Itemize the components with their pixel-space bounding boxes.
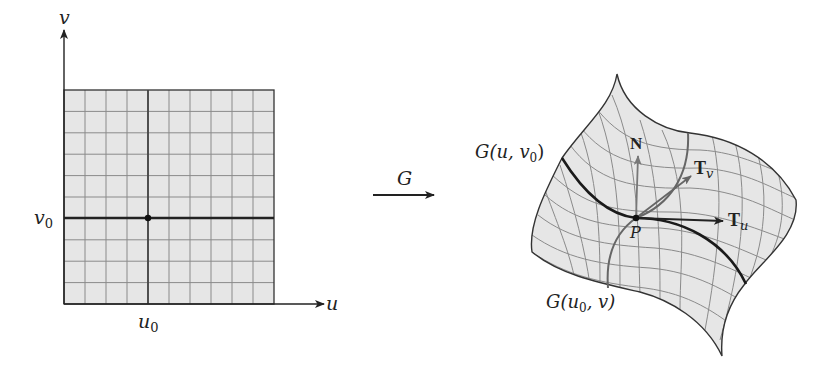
point-p-label: P xyxy=(629,223,641,242)
mapping-arrow-group: G xyxy=(373,167,434,195)
normal-label: N xyxy=(630,134,643,153)
u0-v0-point xyxy=(145,215,151,221)
domain-panel: v u v0 u0 xyxy=(34,6,338,335)
v-axis-label: v xyxy=(59,6,70,28)
mapping-label: G xyxy=(397,167,412,189)
v0-tick-label: v0 xyxy=(34,206,53,231)
point-p xyxy=(633,215,639,221)
u-axis-label: u xyxy=(326,292,338,314)
curve-u-v0-label: G(u, v0) xyxy=(475,141,544,165)
u0-tick-label: u0 xyxy=(138,310,159,335)
surface-fill xyxy=(531,74,796,356)
parametric-surface-diagram: v u v0 u0 G xyxy=(0,0,826,370)
surface-panel: P N Tv Tu G(u, v0) G(u0, v) xyxy=(475,74,800,356)
curve-u0-v-label: G(u0, v) xyxy=(546,291,615,315)
